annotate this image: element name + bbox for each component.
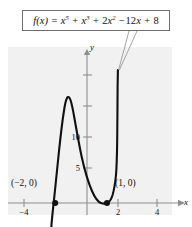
formula-text: f(x) = x5 + x3 + 2x2 −12x + 8 [33,15,159,26]
root-marker-right [104,200,110,206]
formula-lhs: f(x) [33,15,48,26]
graph-figure: f(x) = x5 + x3 + 2x2 −12x + 8 y x −4 2 4… [0,0,192,227]
plot-canvas [0,0,192,227]
root-label-left: (−2, 0) [11,178,37,188]
root-marker-left [52,200,58,206]
formula-callout-box: f(x) = x5 + x3 + 2x2 −12x + 8 [22,10,170,31]
x-tick-label-2: 2 [110,207,126,217]
x-tick-label-4: 4 [149,207,165,217]
x-tick-label--4: −4 [16,207,32,217]
y-tick-label-10: 10 [63,132,80,142]
root-label-right: (1, 0) [115,178,136,188]
x-axis-label: x [184,197,188,207]
y-axis-label: y [90,42,94,52]
plot-background [8,47,172,215]
y-tick-label-5: 5 [66,163,80,173]
